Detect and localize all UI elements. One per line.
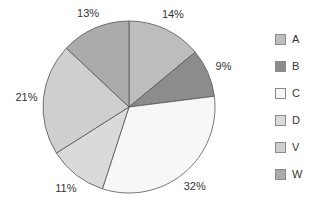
- legend-item-b: B: [275, 59, 313, 73]
- legend-label-b: B: [292, 59, 299, 73]
- legend-swatch-w: [275, 169, 286, 180]
- legend-item-a: A: [275, 32, 313, 46]
- legend-label-v: V: [292, 140, 299, 154]
- legend: A B C D V W: [275, 32, 313, 194]
- slice-label-d: 11%: [55, 182, 76, 194]
- legend-label-c: C: [292, 86, 300, 100]
- legend-label-a: A: [292, 32, 299, 46]
- legend-swatch-b: [275, 61, 286, 72]
- pie-slices: [43, 21, 215, 193]
- legend-swatch-a: [275, 34, 286, 45]
- legend-item-v: V: [275, 140, 313, 154]
- slice-label-b: 9%: [216, 60, 232, 72]
- legend-item-c: C: [275, 86, 313, 100]
- legend-item-d: D: [275, 113, 313, 127]
- slice-label-a: 14%: [162, 8, 184, 20]
- legend-swatch-d: [275, 115, 286, 126]
- legend-item-w: W: [275, 167, 313, 181]
- pie-chart: 14%9%32%11%21%13% A B C D V W: [0, 0, 313, 207]
- slice-label-c: 32%: [184, 180, 206, 192]
- legend-label-d: D: [292, 113, 300, 127]
- pie-chart-canvas: 14%9%32%11%21%13%: [0, 0, 313, 207]
- legend-label-w: W: [292, 167, 302, 181]
- legend-swatch-v: [275, 142, 286, 153]
- slice-label-w: 13%: [77, 7, 99, 19]
- slice-label-v: 21%: [15, 91, 37, 103]
- legend-swatch-c: [275, 88, 286, 99]
